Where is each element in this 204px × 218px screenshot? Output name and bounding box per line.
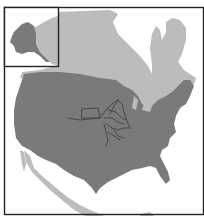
alaska-inset bbox=[5, 8, 59, 67]
map-figure: North America range map bbox=[0, 0, 204, 218]
